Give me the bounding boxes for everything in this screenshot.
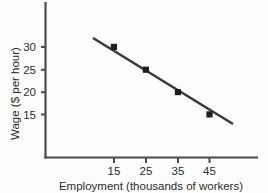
x-tick-label-45: 45 [203,165,216,177]
y-tick-label-15: 15 [23,109,36,121]
x-axis-title: Employment (thousands of workers) [59,180,243,192]
y-tick-label-30: 30 [23,41,36,53]
x-tick-label-35: 35 [172,165,185,177]
chart-figure: 30 25 20 15 15 25 35 45 Wage ($ per hour… [0,0,268,193]
wage-employment-line-chart: 30 25 20 15 15 25 35 45 Wage ($ per hour… [0,0,268,193]
y-tick-label-25: 25 [23,64,36,76]
x-tick-label-25: 25 [140,165,153,177]
y-tick-label-20: 20 [23,86,36,98]
data-point-45-15 [206,111,212,117]
data-point-35-20 [175,89,181,95]
y-axis-title: Wage ($ per hour) [9,47,21,140]
chart-background [0,0,268,193]
data-point-25-25 [143,67,149,73]
data-point-15-30 [111,44,117,50]
x-tick-label-15: 15 [108,165,121,177]
